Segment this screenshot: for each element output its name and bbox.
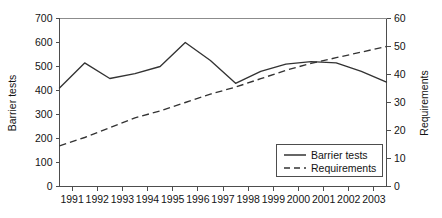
x-tick-label: 1998 <box>236 193 260 205</box>
right-tick-label: 0 <box>394 180 400 192</box>
x-tick-label: 1999 <box>262 193 286 205</box>
right-tick-label: 10 <box>394 152 406 164</box>
series-line-barrier-tests <box>60 43 387 89</box>
left-tick-label: 300 <box>35 108 53 120</box>
left-tick-label: 0 <box>47 180 53 192</box>
x-tick-label: 1992 <box>86 193 110 205</box>
x-tick-label: 2000 <box>287 193 311 205</box>
x-tick-label: 1993 <box>111 193 135 205</box>
x-tick-label: 2002 <box>337 193 361 205</box>
x-tick-label: 1996 <box>186 193 210 205</box>
x-tick-label: 2001 <box>312 193 336 205</box>
left-axis-ticks: 0100200300400500600700 <box>35 12 60 192</box>
left-tick-label: 500 <box>35 60 53 72</box>
left-tick-label: 400 <box>35 84 53 96</box>
x-tick-label: 2003 <box>362 193 386 205</box>
left-tick-label: 600 <box>35 36 53 48</box>
x-tick-label: 1995 <box>161 193 185 205</box>
x-tick-label: 1994 <box>136 193 160 205</box>
left-axis-title: Barrier tests <box>6 75 18 132</box>
chart-legend: Barrier testsRequirements <box>276 144 382 176</box>
right-tick-label: 60 <box>394 12 406 24</box>
right-axis-ticks: 0102030405060 <box>387 12 406 192</box>
x-axis-ticks: 1991199219931994199519961997199819992000… <box>60 187 385 205</box>
left-tick-label: 700 <box>35 12 53 24</box>
x-tick-label: 1997 <box>211 193 235 205</box>
right-tick-label: 40 <box>394 68 406 80</box>
series-line-requirements <box>60 47 387 146</box>
left-tick-label: 200 <box>35 132 53 144</box>
series-lines <box>60 43 387 146</box>
right-tick-label: 50 <box>394 40 406 52</box>
x-tick-label: 1991 <box>60 193 84 205</box>
chart-svg: 0100200300400500600700 0102030405060 199… <box>0 0 442 218</box>
right-tick-label: 20 <box>394 124 406 136</box>
left-tick-label: 100 <box>35 156 53 168</box>
legend-label: Barrier tests <box>311 149 368 161</box>
dual-axis-line-chart: 0100200300400500600700 0102030405060 199… <box>0 0 442 218</box>
legend-label: Requirements <box>311 162 376 174</box>
right-axis-title: Requirements <box>418 70 430 135</box>
right-tick-label: 30 <box>394 96 406 108</box>
